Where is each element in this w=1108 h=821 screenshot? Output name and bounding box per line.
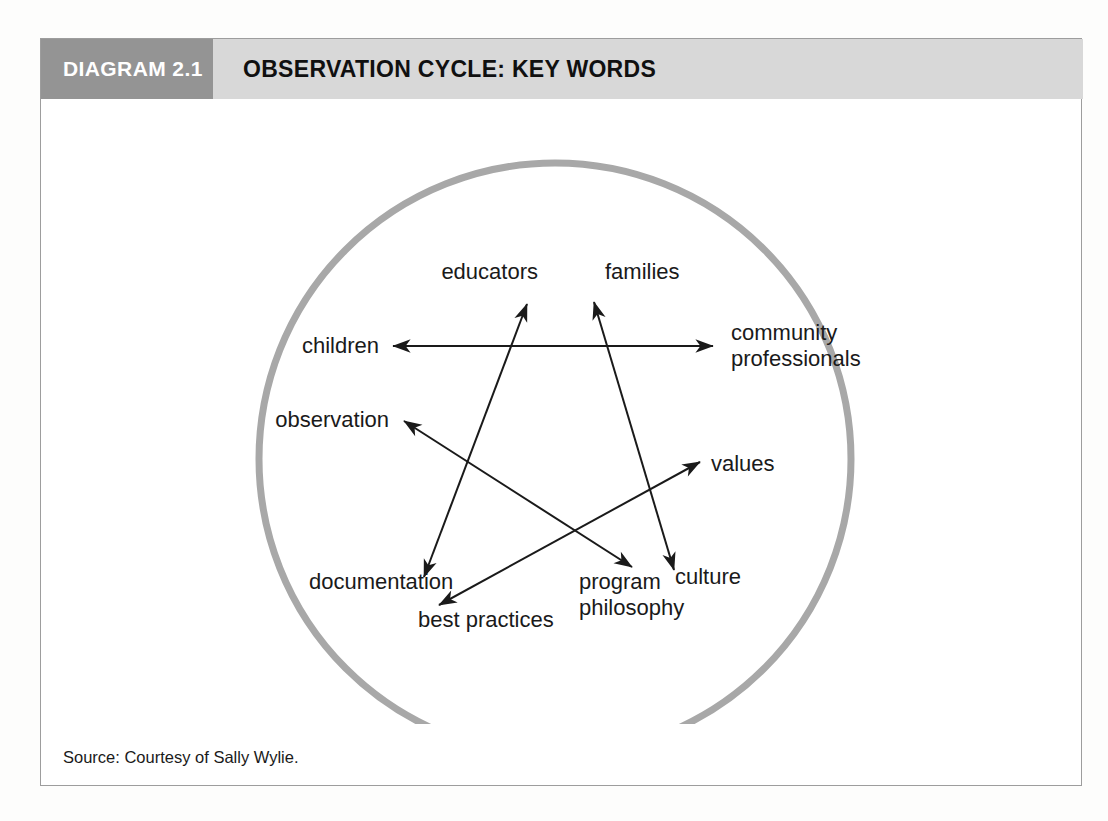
figure-header: DIAGRAM 2.1 OBSERVATION CYCLE: KEY WORDS [41, 39, 1083, 99]
node-label-program-philosophy: program philosophy [579, 569, 684, 621]
edge-educators-to-documentation [424, 304, 527, 577]
edge-observation-to-program-philosophy [404, 421, 632, 567]
diagram-number-tag: DIAGRAM 2.1 [41, 39, 213, 99]
node-label-educators: educators [441, 259, 538, 285]
figure-title: OBSERVATION CYCLE: KEY WORDS [213, 39, 1083, 99]
node-label-children: children [302, 333, 379, 359]
figure-box: DIAGRAM 2.1 OBSERVATION CYCLE: KEY WORDS [40, 38, 1082, 786]
diagram-canvas: educators families children community pr… [41, 99, 1081, 724]
node-label-community-professionals: community professionals [731, 320, 861, 372]
figure-source-note: Source: Courtesy of Sally Wylie. [63, 748, 299, 767]
node-label-observation: observation [275, 407, 389, 433]
node-label-values: values [711, 451, 775, 477]
observation-cycle-svg [41, 99, 1081, 724]
page-background: DIAGRAM 2.1 OBSERVATION CYCLE: KEY WORDS [0, 0, 1108, 821]
node-label-best-practices: best practices [418, 607, 554, 633]
outer-circle [259, 163, 851, 724]
node-label-families: families [605, 259, 680, 285]
node-label-culture: culture [675, 564, 741, 590]
edge-families-to-culture [594, 302, 674, 570]
node-label-documentation: documentation [309, 569, 453, 595]
